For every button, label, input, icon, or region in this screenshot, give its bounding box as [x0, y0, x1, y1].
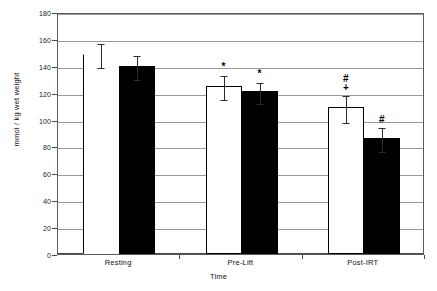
- y-axis-title: mmol / kg wet weight: [12, 50, 21, 170]
- bar: [206, 86, 242, 254]
- error-bar-cap: [342, 123, 349, 124]
- x-axis-title: Time: [0, 272, 437, 281]
- significance-marker: #: [379, 116, 385, 125]
- error-bar-cap: [134, 56, 141, 57]
- bar: [364, 138, 400, 254]
- error-bar: [382, 128, 383, 152]
- error-bar-cap: [256, 83, 263, 84]
- chart-figure: 020406080100120140160180 mmol / kg wet w…: [0, 0, 437, 291]
- x-axis-tick-label: Resting: [105, 258, 132, 267]
- error-bar-cap: [220, 76, 227, 77]
- error-bar: [260, 83, 261, 105]
- bar: [119, 66, 155, 254]
- plot-area: *# +*#: [57, 13, 424, 255]
- bar: [83, 54, 119, 254]
- significance-marker: *: [258, 70, 262, 79]
- error-bar-cap: [220, 100, 227, 101]
- error-bar-cap: [98, 44, 105, 45]
- x-axis-tick-labels: RestingPre-LiftPost-IRT: [57, 258, 424, 272]
- error-bar-cap: [342, 96, 349, 97]
- error-bar-cap: [378, 152, 385, 153]
- gridline: [58, 41, 423, 42]
- x-axis-tick-mark: [424, 255, 425, 259]
- x-axis-tick-label: Pre-Lift: [228, 258, 254, 267]
- bar: [242, 91, 278, 254]
- error-bar-cap: [378, 128, 385, 129]
- significance-marker: *: [222, 63, 226, 72]
- gridline: [58, 14, 423, 15]
- bar: [328, 107, 364, 254]
- significance-marker: # +: [343, 75, 349, 92]
- y-axis-tick-marks: [0, 13, 57, 255]
- error-bar-cap: [98, 68, 105, 69]
- error-bar: [101, 44, 102, 68]
- error-bar-cap: [134, 80, 141, 81]
- x-axis-tick-label: Post-IRT: [347, 258, 378, 267]
- error-bar: [224, 76, 225, 100]
- error-bar: [137, 56, 138, 80]
- error-bar-cap: [256, 104, 263, 105]
- error-bar: [346, 96, 347, 123]
